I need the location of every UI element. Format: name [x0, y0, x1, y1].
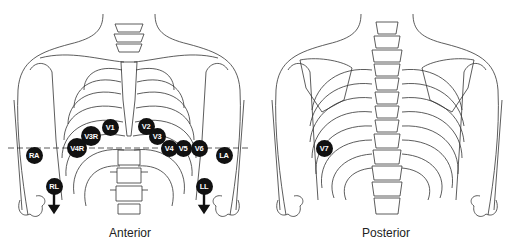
electrode-ll: LL — [196, 178, 213, 195]
electrode-ra: RA — [26, 147, 43, 164]
posterior-torso-illustration — [272, 14, 502, 216]
electrode-v4r: V4R — [67, 138, 87, 158]
posterior-caption: Posterior — [336, 226, 436, 240]
electrode-la: LA — [216, 147, 233, 164]
electrode-rl: RL — [46, 178, 63, 195]
electrode-v5: V5 — [175, 140, 192, 157]
electrode-v1: V1 — [102, 119, 119, 136]
anterior-caption: Anterior — [80, 226, 180, 240]
lead-wire-arrows — [50, 194, 208, 212]
electrode-v6: V6 — [191, 140, 208, 157]
ecg-lead-placement-diagram — [0, 0, 516, 250]
electrode-v7: V7 — [316, 140, 333, 157]
